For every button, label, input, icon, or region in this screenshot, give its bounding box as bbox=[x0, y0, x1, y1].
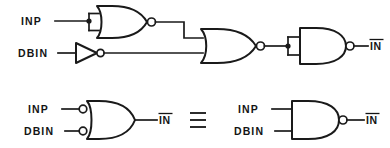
bl-input-label-dbin: DBIN bbox=[24, 125, 54, 137]
bl-input-bubble-dbin bbox=[79, 127, 87, 135]
or-gate-inverted-inputs bbox=[87, 101, 135, 139]
top-input-label-dbin: DBIN bbox=[18, 47, 48, 59]
equivalence-symbol bbox=[190, 113, 206, 127]
br-output-label: IN bbox=[366, 114, 378, 126]
nand-gate-2-output-bubble bbox=[339, 116, 347, 124]
logic-diagram: INP DBIN bbox=[0, 0, 390, 148]
bl-output-label: IN bbox=[159, 114, 171, 126]
top-output-label: IN bbox=[370, 40, 382, 52]
nor-gate-1 bbox=[97, 6, 147, 38]
wire-nor1-to-nor2 bbox=[156, 22, 204, 38]
top-input-label-inp: INP bbox=[21, 15, 42, 27]
nand-gate-1-output-bubble bbox=[346, 42, 354, 50]
bottom-right-circuit: INP DBIN IN bbox=[234, 101, 380, 139]
nor-gate-2 bbox=[201, 29, 256, 63]
inverter-1-output-bubble bbox=[97, 49, 104, 56]
nand-gate-2 bbox=[292, 101, 339, 139]
top-circuit: INP DBIN bbox=[18, 6, 384, 64]
br-input-label-dbin: DBIN bbox=[234, 125, 264, 137]
nor-gate-1-output-bubble bbox=[148, 18, 156, 26]
logic-diagram-canvas: INP DBIN bbox=[0, 0, 390, 148]
bottom-left-circuit: INP DBIN IN bbox=[24, 101, 173, 139]
inverter-1 bbox=[76, 43, 97, 63]
br-input-label-inp: INP bbox=[238, 103, 259, 115]
bl-input-bubble-inp bbox=[79, 105, 87, 113]
nand-gate-1 bbox=[300, 28, 346, 64]
bl-input-label-inp: INP bbox=[28, 103, 49, 115]
nor-gate-2-output-bubble bbox=[257, 42, 265, 50]
